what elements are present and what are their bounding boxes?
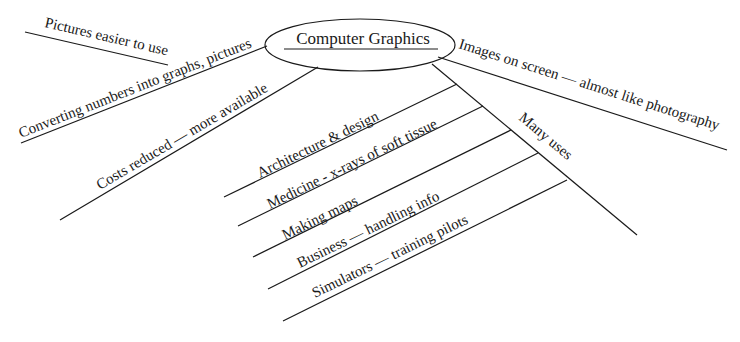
branch-line [438,57,727,150]
central-label: Computer Graphics [296,29,430,48]
branch-label: Pictures easier to use [43,14,170,58]
branch-label: Many uses [516,109,576,163]
branch-line [21,46,267,143]
mind-map: Computer Graphics Pictures easier to use… [0,0,740,342]
sub-branch-architecture: Architecture & design [224,84,457,197]
central-node: Computer Graphics [265,19,455,71]
branch-pictures: Pictures easier to use [25,14,170,65]
sub-branch-label: Architecture & design [254,108,381,181]
branch-images: Images on screen — almost like photograp… [438,36,727,150]
branch-many-uses: Many uses Architecture & design Medicine… [224,64,637,321]
